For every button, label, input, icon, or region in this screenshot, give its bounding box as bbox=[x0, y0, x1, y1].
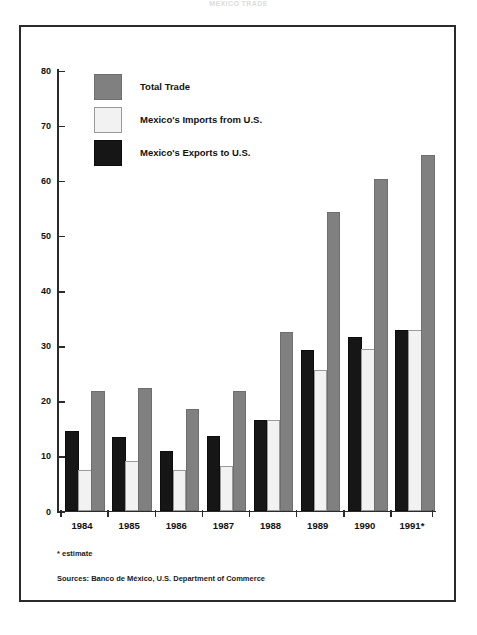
x-axis-label-1984: 1984 bbox=[59, 520, 106, 531]
bar-exports-1987[interactable] bbox=[207, 436, 221, 511]
bar-exports-1989[interactable] bbox=[301, 350, 315, 511]
bar-group-1985 bbox=[106, 70, 153, 511]
bar-exports-1991[interactable] bbox=[395, 330, 409, 511]
bar-exports-1984[interactable] bbox=[65, 431, 79, 510]
bar-imports-1987[interactable] bbox=[220, 466, 234, 511]
bar-group-1984 bbox=[59, 70, 106, 511]
bar-exports-1988[interactable] bbox=[254, 420, 268, 510]
bar-group-1989 bbox=[294, 70, 341, 511]
footnote-estimate: * estimate bbox=[57, 549, 92, 558]
y-tick-label: 60 bbox=[41, 176, 51, 186]
bar-total-1988[interactable] bbox=[280, 332, 294, 510]
y-tick-label: 0 bbox=[46, 507, 51, 517]
bar-total-1990[interactable] bbox=[374, 179, 388, 511]
bar-imports-1985[interactable] bbox=[125, 461, 139, 510]
x-axis-label-1985: 1985 bbox=[106, 520, 153, 531]
bar-total-1986[interactable] bbox=[186, 409, 200, 510]
y-tick-label: 70 bbox=[41, 121, 51, 131]
x-tick-mark bbox=[343, 510, 345, 517]
x-tick-mark bbox=[60, 510, 62, 517]
x-axis-label-1990: 1990 bbox=[341, 520, 388, 531]
bar-group-1987 bbox=[200, 70, 247, 511]
x-axis-label-1989: 1989 bbox=[294, 520, 341, 531]
x-axis-label-1991: 1991* bbox=[388, 520, 435, 531]
page-title: MEXICO TRADE bbox=[0, 0, 477, 8]
x-tick-mark bbox=[107, 510, 109, 517]
bar-imports-1988[interactable] bbox=[267, 420, 281, 510]
bar-exports-1985[interactable] bbox=[112, 437, 126, 510]
x-tick-mark bbox=[249, 510, 251, 517]
x-tick-mark-end bbox=[432, 510, 434, 517]
bar-imports-1991[interactable] bbox=[408, 330, 422, 511]
x-tick-mark bbox=[155, 510, 157, 517]
bar-group-1986 bbox=[153, 70, 200, 511]
bar-group-1990 bbox=[341, 70, 388, 511]
bar-total-1991[interactable] bbox=[421, 155, 435, 511]
y-tick-label: 20 bbox=[41, 396, 51, 406]
x-tick-mark bbox=[202, 510, 204, 517]
bar-imports-1986[interactable] bbox=[173, 470, 187, 511]
x-tick-mark bbox=[390, 510, 392, 517]
chart-frame: Total Trade Mexico's Imports from U.S. M… bbox=[19, 25, 456, 602]
y-tick-label: 40 bbox=[41, 286, 51, 296]
bar-total-1987[interactable] bbox=[233, 391, 247, 511]
plot-area: 01020304050607080 bbox=[57, 69, 436, 512]
bar-total-1989[interactable] bbox=[327, 212, 341, 510]
y-tick-label: 30 bbox=[41, 341, 51, 351]
x-axis-line bbox=[57, 511, 436, 513]
bar-imports-1989[interactable] bbox=[314, 370, 328, 511]
bar-total-1984[interactable] bbox=[91, 391, 105, 511]
bar-imports-1984[interactable] bbox=[78, 470, 92, 511]
y-tick-label: 80 bbox=[41, 66, 51, 76]
bar-group-1991 bbox=[388, 70, 435, 511]
x-tick-mark bbox=[296, 510, 298, 517]
bar-imports-1990[interactable] bbox=[361, 349, 375, 510]
bar-exports-1990[interactable] bbox=[348, 337, 362, 511]
bar-group-1988 bbox=[247, 70, 294, 511]
y-tick-label: 10 bbox=[41, 451, 51, 461]
x-axis-label-1988: 1988 bbox=[247, 520, 294, 531]
x-axis-label-1986: 1986 bbox=[153, 520, 200, 531]
y-tick-label: 50 bbox=[41, 231, 51, 241]
x-axis-label-1987: 1987 bbox=[200, 520, 247, 531]
bar-total-1985[interactable] bbox=[138, 388, 152, 511]
bar-groups bbox=[59, 70, 436, 511]
bar-exports-1986[interactable] bbox=[160, 451, 174, 511]
sources-note: Sources: Banco de México, U.S. Departmen… bbox=[57, 574, 265, 583]
